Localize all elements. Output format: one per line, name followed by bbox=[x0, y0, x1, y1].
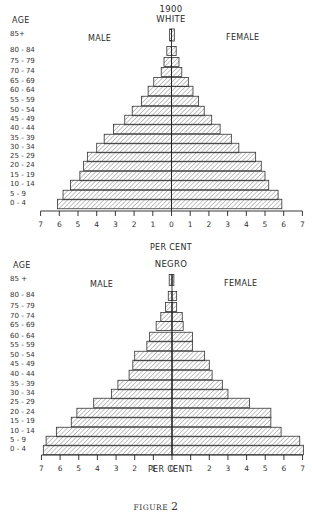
female-bar bbox=[172, 351, 205, 361]
female-bar bbox=[172, 389, 228, 399]
female-bar bbox=[172, 58, 179, 67]
male-bar bbox=[150, 332, 172, 342]
x-tick-label: 6 bbox=[58, 464, 63, 473]
male-bar bbox=[132, 106, 171, 116]
negro-pyramid-chart: 765432101234567 bbox=[0, 255, 312, 480]
male-bar bbox=[154, 78, 172, 87]
x-tick-label: 2 bbox=[132, 464, 137, 473]
x-tick-label: 5 bbox=[263, 464, 268, 473]
male-bar bbox=[147, 341, 172, 351]
male-bar bbox=[87, 152, 171, 162]
female-bar bbox=[172, 398, 249, 408]
white-pyramid-panel: 1900 WHITE AGE MALE FEMALE PER CENT 85+8… bbox=[0, 0, 312, 255]
male-bar bbox=[77, 408, 172, 418]
figure-caption: FIGURE 2 bbox=[0, 500, 312, 513]
figure-label: FIGURE bbox=[134, 503, 169, 512]
female-bar bbox=[172, 68, 182, 77]
male-bar bbox=[104, 134, 171, 144]
male-bar bbox=[84, 161, 172, 171]
x-tick-label: 3 bbox=[225, 220, 230, 229]
negro-pyramid-panel: NEGRO AGE MALE FEMALE PER CENT 85 +80 - … bbox=[0, 255, 312, 480]
x-tick-label: 3 bbox=[113, 220, 118, 229]
female-bar bbox=[172, 134, 232, 144]
x-tick-label: 6 bbox=[281, 220, 286, 229]
female-bar bbox=[172, 143, 239, 153]
white-pyramid-chart: 765432101234567 bbox=[0, 0, 312, 255]
x-tick-label: 0 bbox=[169, 220, 174, 229]
female-bar bbox=[172, 360, 209, 370]
x-tick-label: 1 bbox=[150, 220, 155, 229]
female-bar bbox=[172, 190, 279, 200]
male-bar bbox=[63, 190, 171, 200]
female-bar bbox=[172, 171, 266, 181]
male-bar bbox=[114, 124, 172, 134]
female-bar bbox=[172, 96, 199, 106]
x-tick-label: 6 bbox=[57, 220, 62, 229]
male-bar bbox=[46, 436, 172, 446]
male-bar bbox=[161, 313, 172, 322]
male-bar bbox=[97, 143, 172, 153]
x-tick-label: 1 bbox=[188, 220, 193, 229]
male-bar bbox=[111, 389, 172, 399]
male-bar bbox=[56, 427, 172, 437]
female-bar bbox=[172, 180, 269, 190]
x-tick-label: 7 bbox=[38, 220, 43, 229]
female-bar bbox=[172, 322, 183, 331]
x-tick-label: 2 bbox=[207, 220, 212, 229]
x-tick-label: 7 bbox=[300, 464, 305, 473]
x-tick-label: 3 bbox=[226, 464, 231, 473]
female-bar bbox=[172, 445, 303, 455]
male-bar bbox=[125, 115, 172, 125]
female-bar bbox=[172, 303, 177, 312]
x-tick-label: 7 bbox=[39, 464, 44, 473]
x-tick-label: 1 bbox=[151, 464, 156, 473]
female-bar bbox=[172, 427, 281, 437]
male-bar bbox=[156, 322, 172, 331]
male-bar bbox=[168, 292, 172, 301]
male-bar bbox=[80, 171, 172, 181]
male-bar bbox=[165, 303, 172, 312]
male-bar bbox=[167, 47, 172, 56]
x-tick-label: 1 bbox=[188, 464, 193, 473]
male-bar bbox=[148, 86, 171, 96]
male-bar bbox=[57, 199, 171, 209]
x-tick-label: 3 bbox=[114, 464, 119, 473]
male-bar bbox=[161, 68, 171, 77]
male-bar bbox=[71, 417, 172, 427]
male-bar bbox=[133, 360, 172, 370]
female-bar bbox=[172, 436, 300, 446]
x-tick-label: 2 bbox=[132, 220, 137, 229]
female-bar bbox=[172, 370, 212, 380]
x-tick-label: 5 bbox=[263, 220, 268, 229]
x-tick-label: 4 bbox=[94, 220, 99, 229]
x-tick-label: 2 bbox=[207, 464, 212, 473]
female-bar bbox=[172, 78, 189, 87]
female-bar bbox=[172, 341, 193, 351]
female-bar bbox=[172, 408, 271, 418]
x-tick-label: 4 bbox=[95, 464, 100, 473]
x-tick-label: 5 bbox=[76, 464, 81, 473]
female-bar bbox=[172, 417, 271, 427]
female-bar bbox=[172, 380, 222, 390]
female-bar bbox=[172, 199, 282, 209]
female-bar bbox=[172, 86, 194, 96]
female-bar bbox=[172, 292, 177, 301]
female-bar bbox=[172, 152, 256, 162]
male-bar bbox=[164, 58, 171, 67]
female-bar bbox=[172, 161, 262, 171]
female-bar bbox=[172, 47, 177, 56]
x-tick-label: 4 bbox=[244, 464, 249, 473]
female-bar bbox=[172, 115, 212, 125]
male-bar bbox=[135, 351, 172, 361]
male-bar bbox=[142, 96, 172, 106]
male-bar bbox=[129, 370, 172, 380]
male-bar bbox=[71, 180, 172, 190]
x-tick-label: 7 bbox=[300, 220, 305, 229]
female-bar bbox=[172, 124, 221, 134]
male-bar bbox=[94, 398, 172, 408]
female-bar bbox=[172, 106, 205, 116]
figure-number: 2 bbox=[171, 500, 179, 513]
x-tick-label: 6 bbox=[282, 464, 287, 473]
female-bar bbox=[172, 332, 193, 342]
x-tick-label: 5 bbox=[76, 220, 81, 229]
